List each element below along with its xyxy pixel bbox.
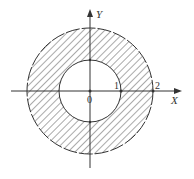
tick-label-1: 1 [114,80,119,91]
tick-1-dot [120,90,123,93]
annulus-diagram: Y X 0 1 2 [0,0,194,179]
tick-label-2: 2 [155,80,160,91]
inner-bottom-dot [89,121,91,123]
origin-dot [89,90,92,93]
inner-top-dot [89,59,91,61]
origin-label: 0 [87,94,92,105]
hatched-annulus [0,0,194,179]
x-label: X [170,94,179,106]
